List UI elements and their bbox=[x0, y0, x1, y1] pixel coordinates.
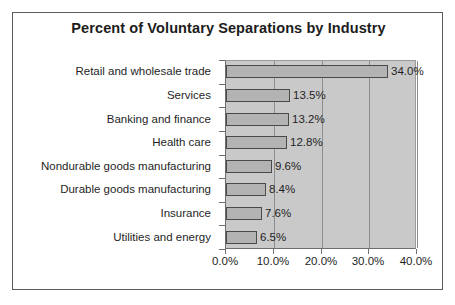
y-axis-label: Services bbox=[167, 85, 211, 106]
x-axis-tick-label: 30.0% bbox=[352, 255, 385, 267]
bar[interactable] bbox=[226, 231, 257, 244]
bar[interactable] bbox=[226, 207, 262, 220]
y-axis-label: Banking and finance bbox=[107, 109, 211, 130]
bar[interactable] bbox=[226, 113, 289, 126]
x-axis-tick bbox=[273, 249, 274, 254]
bar-value-label: 13.5% bbox=[293, 87, 326, 104]
x-axis-tick-label: 10.0% bbox=[257, 255, 290, 267]
y-axis-label: Durable goods manufacturing bbox=[60, 179, 211, 200]
x-axis-tick-labels: 0.0%10.0%20.0%30.0%40.0% bbox=[225, 255, 417, 273]
x-axis-tick bbox=[416, 249, 417, 254]
x-axis-tick-label: 20.0% bbox=[305, 255, 338, 267]
y-axis-label: Utilities and energy bbox=[113, 227, 211, 248]
x-axis-tick bbox=[321, 249, 322, 254]
bar-row: 12.8% bbox=[226, 133, 415, 154]
chart-title: Percent of Voluntary Separations by Indu… bbox=[13, 20, 444, 36]
x-axis-tick-label: 0.0% bbox=[212, 255, 238, 267]
bar-value-label: 7.6% bbox=[265, 205, 291, 222]
x-axis-tick bbox=[225, 249, 226, 254]
gridline bbox=[417, 61, 418, 248]
bar-value-label: 12.8% bbox=[290, 134, 323, 151]
bar-row: 6.5% bbox=[226, 228, 415, 249]
y-axis-label: Nondurable goods manufacturing bbox=[41, 156, 211, 177]
bar-row: 7.6% bbox=[226, 204, 415, 225]
y-axis-label: Retail and wholesale trade bbox=[75, 61, 211, 82]
bar[interactable] bbox=[226, 136, 287, 149]
plot-area: 34.0%13.5%13.2%12.8%9.6%8.4%7.6%6.5% bbox=[225, 60, 416, 249]
bar[interactable] bbox=[226, 65, 388, 78]
bar-row: 13.5% bbox=[226, 86, 415, 107]
bar-value-label: 13.2% bbox=[292, 111, 325, 128]
x-axis-ticks bbox=[225, 249, 417, 254]
bar-row: 8.4% bbox=[226, 180, 415, 201]
chart-frame: Percent of Voluntary Separations by Indu… bbox=[12, 12, 443, 290]
y-axis-category-labels: Retail and wholesale tradeServicesBankin… bbox=[13, 60, 218, 249]
x-axis-tick bbox=[368, 249, 369, 254]
x-axis-tick-label: 40.0% bbox=[400, 255, 433, 267]
bar[interactable] bbox=[226, 160, 272, 173]
bar-value-label: 8.4% bbox=[269, 181, 295, 198]
bar[interactable] bbox=[226, 89, 290, 102]
y-axis-label: Insurance bbox=[160, 203, 211, 224]
bar-row: 34.0% bbox=[226, 62, 415, 83]
bar[interactable] bbox=[226, 183, 266, 196]
bar-row: 9.6% bbox=[226, 157, 415, 178]
bar-value-label: 6.5% bbox=[260, 229, 286, 246]
bar-value-label: 9.6% bbox=[275, 158, 301, 175]
bar-value-label: 34.0% bbox=[391, 63, 424, 80]
y-axis-label: Health care bbox=[152, 132, 211, 153]
bars-layer: 34.0%13.5%13.2%12.8%9.6%8.4%7.6%6.5% bbox=[226, 61, 415, 248]
bar-row: 13.2% bbox=[226, 110, 415, 131]
